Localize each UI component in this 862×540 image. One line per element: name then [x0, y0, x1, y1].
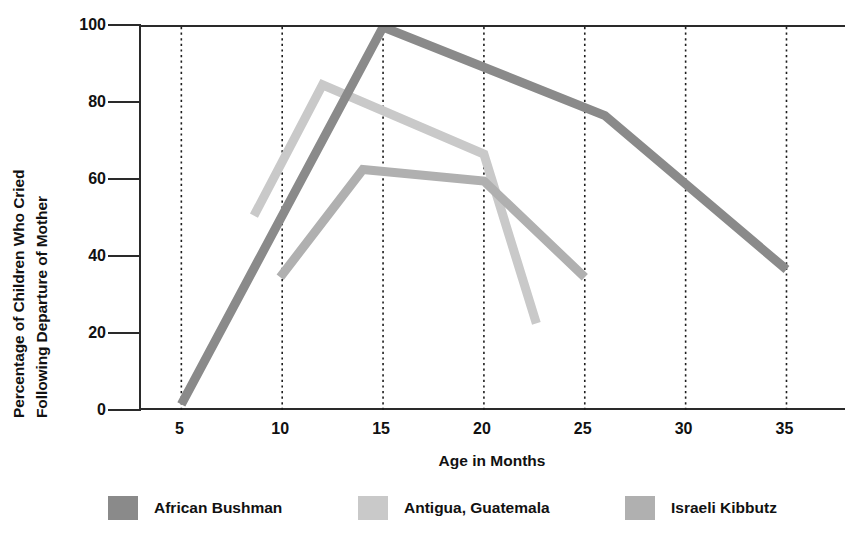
y-axis-title-line-2: Following Departure of Mother: [33, 196, 51, 418]
y-axis-tick-label: 0: [64, 401, 106, 419]
x-axis-tick-label: 35: [754, 420, 814, 438]
y-axis-tick-mark: [108, 255, 141, 257]
y-axis-tick-label: 60: [64, 170, 106, 188]
legend-label: Israeli Kibbutz: [671, 499, 777, 517]
x-axis-title: Age in Months: [139, 452, 845, 470]
series-line: [254, 85, 536, 324]
x-axis-tick-label: 20: [452, 420, 512, 438]
x-axis-tick-label: 30: [654, 420, 714, 438]
series-line: [280, 169, 585, 277]
legend-swatch: [625, 496, 655, 520]
x-axis-tick-label: 10: [250, 420, 310, 438]
plot-area: [139, 25, 845, 410]
legend-item[interactable]: Israeli Kibbutz: [625, 492, 777, 524]
x-axis-tick-label: 15: [351, 420, 411, 438]
legend-item[interactable]: Antigua, Guatemala: [358, 492, 550, 524]
y-axis-tick-label: 20: [64, 324, 106, 342]
legend-swatch: [358, 496, 388, 520]
y-axis-tick-mark: [108, 101, 141, 103]
y-axis-tick-mark: [108, 409, 141, 411]
y-axis-tick-mark: [108, 332, 141, 334]
legend-swatch: [108, 496, 138, 520]
legend-label: African Bushman: [154, 499, 282, 517]
plot-canvas: [141, 27, 847, 412]
x-axis-tick-label: 25: [553, 420, 613, 438]
y-axis-tick-mark: [108, 24, 141, 26]
y-axis-title-line-1: Percentage of Children Who Cried: [10, 170, 28, 418]
chart-figure: Percentage of Children Who Cried Followi…: [0, 0, 862, 540]
y-axis-tick-label: 40: [64, 247, 106, 265]
chart-legend: African BushmanAntigua, GuatemalaIsraeli…: [100, 492, 800, 530]
y-axis-tick-label: 100: [64, 16, 106, 34]
y-axis-title: Percentage of Children Who Cried Followi…: [6, 18, 62, 418]
y-axis-tick-label: 80: [64, 93, 106, 111]
legend-label: Antigua, Guatemala: [404, 499, 550, 517]
x-axis-tick-label: 5: [149, 420, 209, 438]
y-axis-tick-mark: [108, 178, 141, 180]
legend-item[interactable]: African Bushman: [108, 492, 282, 524]
y-axis-tick-labels: 020406080100: [58, 0, 106, 540]
